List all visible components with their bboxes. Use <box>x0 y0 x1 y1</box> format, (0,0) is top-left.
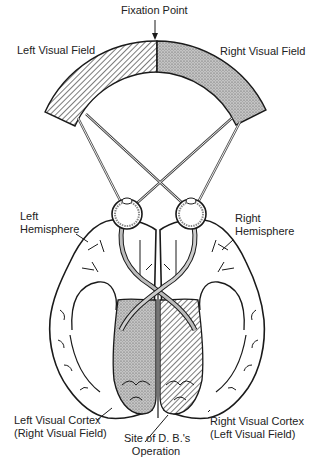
right-hemisphere-label-line2: Hemisphere <box>235 225 294 238</box>
right-visual-field-label: Right Visual Field <box>220 45 305 58</box>
right-eye <box>176 198 206 229</box>
right-visual-cortex-label-line2: (Left Visual Field) <box>210 428 295 441</box>
operation-site-label-line2: Operation <box>124 445 188 458</box>
visual-pathway-diagram: Fixation Point Left Visual Field Right V… <box>0 0 319 468</box>
visual-field-arc <box>45 20 266 126</box>
fixation-point-label: Fixation Point <box>121 4 188 17</box>
left-hemisphere-label-line2: Hemisphere <box>20 223 79 236</box>
right-visual-cortex-label-line1: Right Visual Cortex <box>210 415 304 428</box>
right-hemisphere-label-line1: Right <box>235 212 261 225</box>
operation-site-label-line1: Site of D. B.'s <box>124 432 188 445</box>
left-visual-field-label: Left Visual Field <box>17 44 95 57</box>
left-visual-cortex-label-line1: Left Visual Cortex <box>14 414 101 427</box>
left-hemisphere-label-line1: Left <box>20 210 38 223</box>
left-eye <box>112 198 142 229</box>
left-visual-cortex-label-line2: (Right Visual Field) <box>14 427 107 440</box>
